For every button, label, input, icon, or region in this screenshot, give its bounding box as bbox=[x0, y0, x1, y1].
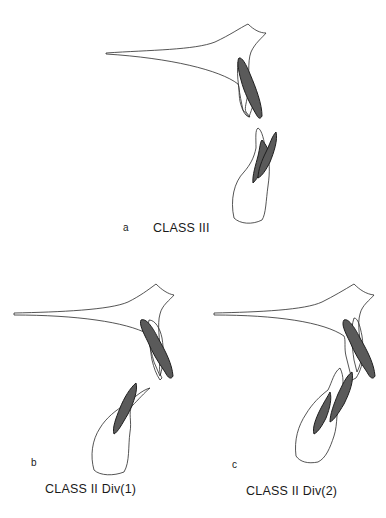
upper-incisor-shaded bbox=[238, 58, 262, 118]
panel-c-tracing bbox=[214, 284, 375, 463]
lower-incisor-outline bbox=[92, 388, 150, 475]
panel-a-tracing bbox=[106, 24, 277, 223]
panel-a-letter: a bbox=[123, 222, 129, 233]
lower-incisor-shaded-2 bbox=[330, 372, 353, 422]
panel-b-title: CLASS II Div(1) bbox=[45, 482, 136, 496]
panel-c-title: CLASS II Div(2) bbox=[246, 484, 337, 498]
panel-a-title: CLASS III bbox=[153, 221, 210, 235]
lower-incisor-shaded bbox=[113, 383, 136, 434]
lower-incisor-shaded-1 bbox=[313, 392, 330, 434]
panel-b-letter: b bbox=[31, 457, 37, 468]
panel-b-tracing bbox=[14, 284, 174, 475]
figure-canvas bbox=[0, 0, 386, 518]
panel-c-letter: c bbox=[232, 459, 237, 470]
